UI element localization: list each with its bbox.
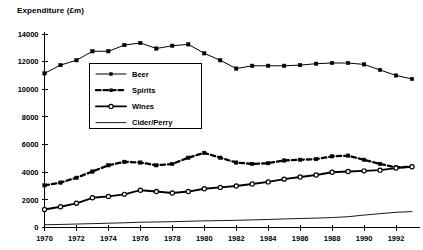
x-tick-label: 1986 — [292, 234, 309, 243]
x-tick-label: 1978 — [164, 234, 181, 243]
data-point — [314, 157, 317, 160]
chart-plot-area: 02000400060008000100001200014000 1970197… — [0, 0, 423, 250]
data-point — [219, 59, 222, 62]
x-tick-label: 1980 — [196, 234, 213, 243]
legend-item-label: Spirits — [132, 86, 155, 95]
y-tick-label: 10000 — [18, 85, 39, 94]
legend-swatch-marker — [109, 89, 112, 92]
x-tick-label: 1988 — [324, 234, 341, 243]
data-point — [394, 166, 398, 170]
data-point — [235, 67, 238, 70]
data-point — [122, 192, 126, 196]
data-point — [59, 63, 62, 66]
data-point — [218, 185, 222, 189]
data-point — [314, 62, 317, 65]
data-point — [75, 59, 78, 62]
x-tick-label: 1972 — [68, 234, 85, 243]
legend-item-label: Wines — [132, 102, 154, 111]
chart-legend: BeerSpiritsWinesCider/Perry — [89, 63, 201, 128]
data-point — [362, 169, 366, 173]
data-point — [107, 164, 110, 167]
data-point — [59, 181, 62, 184]
data-point — [330, 155, 333, 158]
data-point — [123, 160, 126, 163]
data-point — [235, 161, 238, 164]
data-point — [378, 68, 381, 71]
data-point — [74, 201, 78, 205]
data-point — [362, 158, 365, 161]
data-point — [346, 154, 349, 157]
x-axis-tick-labels: 1970197219741976197819801982198419861988… — [36, 234, 404, 243]
series-wines — [42, 165, 414, 212]
data-point — [155, 164, 158, 167]
y-tick-label: 14000 — [18, 30, 39, 39]
data-point — [298, 175, 302, 179]
data-point — [154, 189, 158, 193]
data-point — [266, 180, 270, 184]
data-point — [378, 168, 382, 172]
data-point — [282, 64, 285, 67]
data-point — [266, 162, 269, 165]
data-point — [346, 169, 350, 173]
x-tick-label: 1976 — [132, 234, 149, 243]
data-point — [234, 184, 238, 188]
y-tick-label: 4000 — [22, 168, 39, 177]
data-point — [42, 207, 46, 211]
y-tick-label: 8000 — [22, 113, 39, 122]
legend-swatch-marker — [109, 104, 113, 108]
data-point — [155, 47, 158, 50]
data-point — [170, 191, 174, 195]
data-point — [91, 170, 94, 173]
data-point — [330, 61, 333, 64]
data-point — [250, 182, 254, 186]
data-point — [251, 162, 254, 165]
series-spirits — [43, 151, 414, 187]
data-point — [43, 72, 46, 75]
data-point — [107, 50, 110, 53]
y-tick-label: 6000 — [22, 140, 39, 149]
y-axis-tick-labels: 02000400060008000100001200014000 — [18, 30, 39, 233]
data-point — [58, 205, 62, 209]
data-point — [187, 43, 190, 46]
data-point — [394, 74, 397, 77]
x-tick-label: 1992 — [388, 234, 405, 243]
data-point — [171, 44, 174, 47]
data-point — [251, 64, 254, 67]
x-tick-label: 1990 — [356, 234, 373, 243]
data-point — [171, 162, 174, 165]
data-point — [266, 64, 269, 67]
data-point — [362, 63, 365, 66]
data-point — [43, 184, 46, 187]
data-point — [187, 156, 190, 159]
data-point — [123, 43, 126, 46]
data-point — [203, 151, 206, 154]
x-tick-label: 1982 — [228, 234, 245, 243]
data-point — [90, 196, 94, 200]
data-point — [219, 156, 222, 159]
legend-item-label: Beer — [132, 70, 149, 79]
data-point — [139, 161, 142, 164]
data-point — [139, 41, 142, 44]
data-point — [410, 77, 413, 80]
data-point — [330, 170, 334, 174]
data-point — [378, 162, 381, 165]
data-point — [410, 165, 414, 169]
data-point — [282, 177, 286, 181]
legend-item-label: Cider/Perry — [132, 118, 173, 127]
y-tick-label: 12000 — [18, 57, 39, 66]
data-point — [314, 173, 318, 177]
legend-swatch-marker — [109, 72, 112, 75]
data-point — [298, 63, 301, 66]
data-point — [138, 188, 142, 192]
data-point — [106, 194, 110, 198]
data-point — [203, 52, 206, 55]
series-cider-perry — [45, 212, 413, 225]
y-tick-label: 2000 — [22, 196, 39, 205]
data-point — [298, 158, 301, 161]
y-tick-label: 0 — [34, 223, 38, 232]
data-point — [282, 159, 285, 162]
data-point — [75, 176, 78, 179]
data-point — [91, 50, 94, 53]
x-tick-label: 1970 — [36, 234, 53, 243]
x-tick-label: 1984 — [260, 234, 278, 243]
